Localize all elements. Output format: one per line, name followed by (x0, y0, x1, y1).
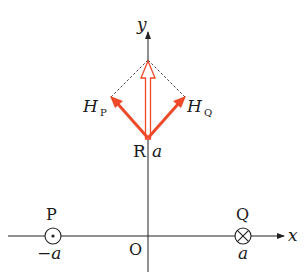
x-axis-label: x (288, 225, 298, 245)
resultant-arrow (141, 61, 155, 139)
p-current-out-icon (45, 228, 61, 244)
q-coord-label: a (238, 243, 248, 263)
diagram-canvas: y x O H P H Q R a P −a Q a (0, 0, 307, 272)
r-label: R (133, 141, 147, 161)
p-label: P (46, 205, 57, 224)
hp-vector-arrow (110, 96, 148, 138)
hp-label: H (82, 96, 99, 116)
hp-subscript: P (100, 107, 107, 118)
origin-label: O (129, 240, 142, 259)
hq-label: H (186, 96, 203, 116)
q-current-in-icon (235, 228, 251, 244)
p-coord-label: −a (37, 243, 61, 263)
r-coord-label: a (152, 141, 162, 161)
hq-vector-arrow (148, 96, 186, 138)
q-label: Q (236, 205, 249, 224)
y-axis-label: y (136, 14, 147, 34)
hq-subscript: Q (204, 107, 212, 118)
